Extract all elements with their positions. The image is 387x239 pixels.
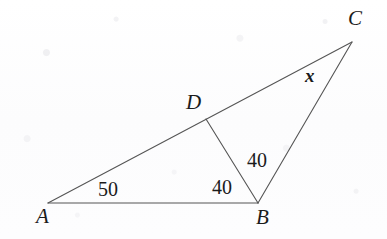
angle-label-a: 50 (98, 179, 118, 199)
angle-label-bcd-unknown: x (305, 66, 315, 85)
vertex-label-b: B (256, 207, 269, 228)
geometry-canvas (0, 0, 387, 239)
angle-label-dba: 40 (212, 177, 232, 197)
vertex-label-d: D (186, 92, 201, 113)
vertex-label-a: A (36, 206, 49, 227)
angle-label-dbc: 40 (247, 150, 267, 170)
geometry-figure: A B C D 50 40 40 x (0, 0, 387, 239)
vertex-label-c: C (348, 8, 362, 29)
